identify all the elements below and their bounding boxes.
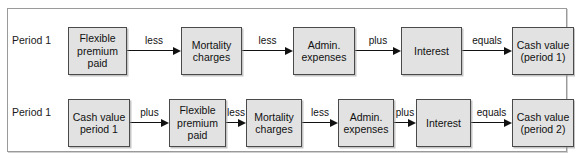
connector-conn-5: plus [130,117,169,129]
node-interest-2: Interest [416,99,471,147]
arrowhead-icon [393,47,401,55]
node-label: Admin. expenses [341,111,391,136]
operator-label: plus [394,107,416,118]
diagram-row-2: Period 1pluslesslessplusequalsCash value… [8,81,566,153]
node-cash-value-period-1: Cash value (period 1) [512,27,574,75]
arrowhead-icon [330,119,338,127]
arrowhead-icon [238,119,246,127]
arrowhead-icon [173,47,181,55]
connector-conn-2: less [242,45,293,57]
connector-line [471,122,504,123]
node-mortality-charges-2: Mortality charges [246,99,302,147]
connector-line [242,50,285,51]
arrowhead-icon [504,119,512,127]
node-label: Cash value period 1 [71,111,127,136]
connector-line [355,50,393,51]
diagram-row-1: Period 1lesslessplusequalsFlexible premi… [8,9,566,81]
node-label: Interest [404,45,459,58]
connector-conn-7: less [302,117,338,129]
node-label: Flexible premium paid [71,32,124,70]
connector-conn-3: plus [355,45,401,57]
node-label: Admin. expenses [296,39,352,64]
operator-label: less [302,107,338,118]
node-cash-value-period-1-input: Cash value period 1 [68,99,130,147]
node-label: Mortality charges [184,39,239,64]
connector-line [394,122,408,123]
arrowhead-icon [161,119,169,127]
connector-line [226,122,238,123]
node-mortality-charges: Mortality charges [181,27,242,75]
connector-line [127,50,173,51]
operator-label: less [226,107,246,118]
operator-label: less [242,35,293,46]
connector-conn-1: less [127,45,181,57]
period-label-2: Period 1 [12,106,64,118]
connector-conn-4: equals [462,45,512,57]
operator-label: equals [471,107,512,118]
node-label: Cash value (period 2) [515,111,571,136]
node-label: Interest [419,117,468,130]
diagram-frame: Period 1lesslessplusequalsFlexible premi… [7,8,567,152]
node-admin-expenses: Admin. expenses [293,27,355,75]
period-label-1: Period 1 [12,34,64,46]
arrowhead-icon [504,47,512,55]
operator-label: plus [130,107,169,118]
connector-conn-6: less [226,117,246,129]
operator-label: plus [355,35,401,46]
arrowhead-icon [285,47,293,55]
operator-label: less [127,35,181,46]
node-label: Cash value (period 1) [515,39,571,64]
connector-conn-9: equals [471,117,512,129]
connector-conn-8: plus [394,117,416,129]
node-cash-value-period-2: Cash value (period 2) [512,99,574,147]
arrowhead-icon [408,119,416,127]
operator-label: equals [462,35,512,46]
connector-line [302,122,330,123]
node-label: Flexible premium paid [172,104,223,142]
node-flexible-premium-paid-2: Flexible premium paid [169,99,226,147]
node-label: Mortality charges [249,111,299,136]
node-flexible-premium-paid: Flexible premium paid [68,27,127,75]
flow-diagram-figure: Period 1lesslessplusequalsFlexible premi… [0,0,575,160]
node-interest: Interest [401,27,462,75]
connector-line [130,122,161,123]
node-admin-expenses-2: Admin. expenses [338,99,394,147]
connector-line [462,50,504,51]
